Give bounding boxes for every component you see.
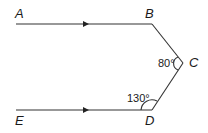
point-label-d: D: [145, 113, 154, 128]
geometry-diagram: A B C D E 80° 130°: [0, 0, 208, 133]
point-label-e: E: [15, 113, 24, 128]
parallel-arrow-icon: [83, 21, 89, 27]
angle-label-c: 80°: [158, 57, 175, 69]
parallel-arrow-icon: [83, 107, 89, 113]
angle-label-d: 130°: [127, 92, 150, 104]
point-label-c: C: [189, 55, 199, 70]
point-label-b: B: [145, 6, 154, 21]
point-label-a: A: [14, 6, 24, 21]
segment-cd: [152, 63, 183, 110]
